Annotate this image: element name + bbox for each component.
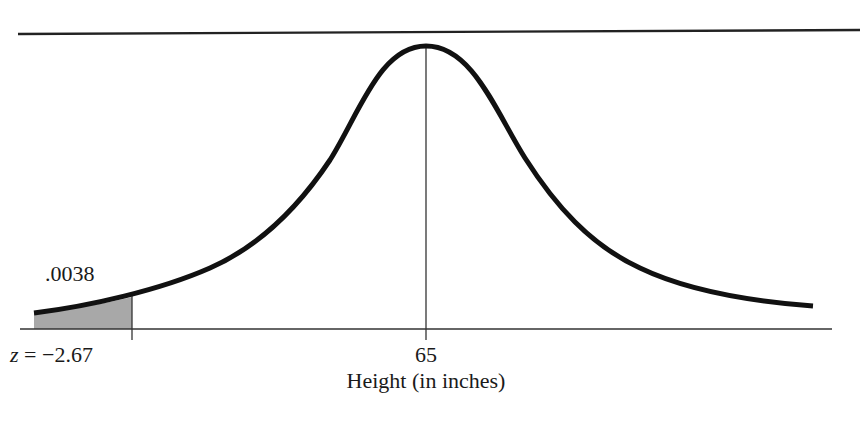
tail-probability-label: .0038	[45, 263, 95, 285]
top-rule	[18, 30, 860, 34]
x-axis-title: Height (in inches)	[347, 370, 506, 392]
normal-distribution-figure: .0038 z = −2.67 65 Height (in inches)	[0, 0, 860, 427]
z-value: = −2.67	[19, 342, 93, 367]
z-variable: z	[10, 342, 19, 367]
z-score-label: z = −2.67	[10, 344, 93, 366]
mean-tick-label: 65	[415, 344, 437, 366]
bell-curve	[34, 46, 813, 313]
